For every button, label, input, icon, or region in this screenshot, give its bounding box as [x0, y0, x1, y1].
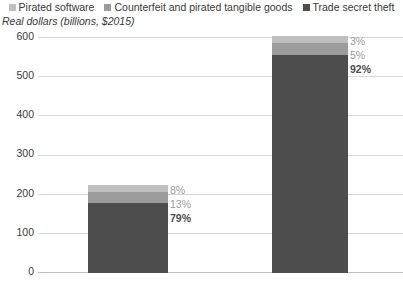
y-axis-tick: 600: [0, 31, 34, 42]
legend-item-label: Counterfeit and pirated tangible goods: [114, 2, 292, 13]
y-axis-tick: 0: [0, 266, 34, 277]
y-axis: 600 500 400 300 200 100 0: [0, 37, 34, 273]
legend-item-label: Trade secret theft: [313, 2, 395, 13]
percent-labels-category-2: 3% 5% 92%: [350, 36, 403, 96]
y-axis-tick: 200: [0, 188, 34, 199]
y-axis-tick: 400: [0, 109, 34, 120]
gridline-600: [38, 37, 403, 38]
bar-segment-trade-secret-theft[interactable]: [272, 55, 348, 273]
percent-label-counterfeit-goods: 13%: [170, 199, 191, 210]
gridline-400: [38, 115, 403, 116]
bar-segment-trade-secret-theft[interactable]: [88, 203, 168, 273]
square-swatch-icon: [9, 4, 16, 11]
legend-item-pirated-software: Pirated software: [9, 2, 95, 13]
stacked-bar-category-2[interactable]: [272, 36, 348, 273]
y-axis-tick: 300: [0, 148, 34, 159]
bar-segment-pirated-software[interactable]: [272, 36, 348, 43]
bar-segment-counterfeit-goods[interactable]: [88, 192, 168, 203]
gridline-300: [38, 155, 403, 156]
plot-area: 8% 13% 79% 3% 5% 92%: [38, 37, 403, 273]
stacked-bar-category-1[interactable]: [88, 185, 168, 273]
percent-label-trade-secret-theft: 79%: [170, 213, 191, 224]
chart-subtitle: Real dollars (billions, $2015): [2, 15, 135, 27]
percent-label-trade-secret-theft: 92%: [350, 64, 371, 75]
chart-legend: Pirated software Counterfeit and pirated…: [0, 1, 403, 14]
percent-label-pirated-software: 8%: [170, 185, 185, 196]
legend-item-trade-secret-theft: Trade secret theft: [303, 2, 395, 13]
gridline-500: [38, 76, 403, 77]
percent-label-counterfeit-goods: 5%: [350, 50, 365, 61]
y-axis-tick: 500: [0, 70, 34, 81]
bar-segment-counterfeit-goods[interactable]: [272, 43, 348, 55]
legend-item-label: Pirated software: [19, 2, 95, 13]
percent-labels-category-1: 8% 13% 79%: [170, 185, 230, 245]
percent-label-pirated-software: 3%: [350, 36, 365, 47]
legend-item-counterfeit-goods: Counterfeit and pirated tangible goods: [104, 2, 292, 13]
square-swatch-icon: [104, 4, 111, 11]
y-axis-tick: 100: [0, 227, 34, 238]
square-swatch-icon: [303, 4, 310, 11]
bar-segment-pirated-software[interactable]: [88, 185, 168, 192]
